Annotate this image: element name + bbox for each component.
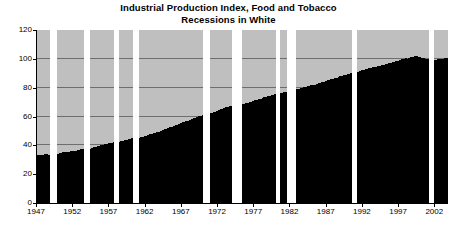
x-tick-mark	[326, 204, 327, 207]
y-tick-mark	[33, 30, 36, 31]
x-tick-label: 1967	[166, 207, 196, 217]
recession-band	[232, 30, 242, 203]
x-tick-label: 1957	[93, 207, 123, 217]
chart-title-line1: Industrial Production Index, Food and To…	[120, 2, 337, 13]
x-tick-label: 1972	[202, 207, 232, 217]
y-tick-label: 100	[2, 55, 32, 63]
recession-band	[133, 30, 139, 203]
x-tick-label: 1962	[130, 207, 160, 217]
y-axis: 020406080100120	[0, 0, 32, 240]
y-tick-label: 80	[2, 84, 32, 92]
x-tick-mark	[362, 204, 363, 207]
x-tick-mark	[36, 204, 37, 207]
x-tick-mark	[253, 204, 254, 207]
x-tick-mark	[72, 204, 73, 207]
x-tick-mark	[145, 204, 146, 207]
recession-band	[429, 30, 434, 203]
chart-container: Industrial Production Index, Food and To…	[0, 0, 457, 240]
recession-band	[352, 30, 357, 203]
x-tick-label: 2002	[419, 207, 449, 217]
y-tick-label: 120	[2, 26, 32, 34]
bars-layer	[37, 30, 448, 203]
x-tick-mark	[434, 204, 435, 207]
recession-band	[114, 30, 119, 203]
y-tick-mark	[33, 59, 36, 60]
recession-band	[276, 30, 280, 203]
bar	[446, 58, 448, 203]
y-tick-mark	[33, 88, 36, 89]
chart-subtitle: Recessions in White	[0, 14, 457, 26]
recession-band	[203, 30, 210, 203]
x-tick-mark	[289, 204, 290, 207]
x-tick-label: 1947	[21, 207, 51, 217]
y-tick-mark	[33, 117, 36, 118]
x-tick-label: 1992	[347, 207, 377, 217]
y-tick-mark	[33, 174, 36, 175]
recession-band	[287, 30, 297, 203]
chart-title: Industrial Production Index, Food and To…	[0, 2, 457, 26]
recession-band	[84, 30, 90, 203]
y-tick-label: 0	[2, 199, 32, 207]
y-tick-label: 20	[2, 170, 32, 178]
y-tick-mark	[33, 145, 36, 146]
x-tick-mark	[181, 204, 182, 207]
x-tick-mark	[398, 204, 399, 207]
x-tick-label: 1997	[383, 207, 413, 217]
x-tick-mark	[108, 204, 109, 207]
x-tick-label: 1982	[274, 207, 304, 217]
recession-band	[50, 30, 57, 203]
y-tick-label: 40	[2, 141, 32, 149]
x-axis: 1947195219571962196719721977198219871992…	[0, 207, 457, 221]
plot-area	[36, 30, 448, 204]
x-tick-label: 1952	[57, 207, 87, 217]
y-tick-label: 60	[2, 113, 32, 121]
x-tick-label: 1977	[238, 207, 268, 217]
x-tick-mark	[217, 204, 218, 207]
x-tick-label: 1987	[311, 207, 341, 217]
